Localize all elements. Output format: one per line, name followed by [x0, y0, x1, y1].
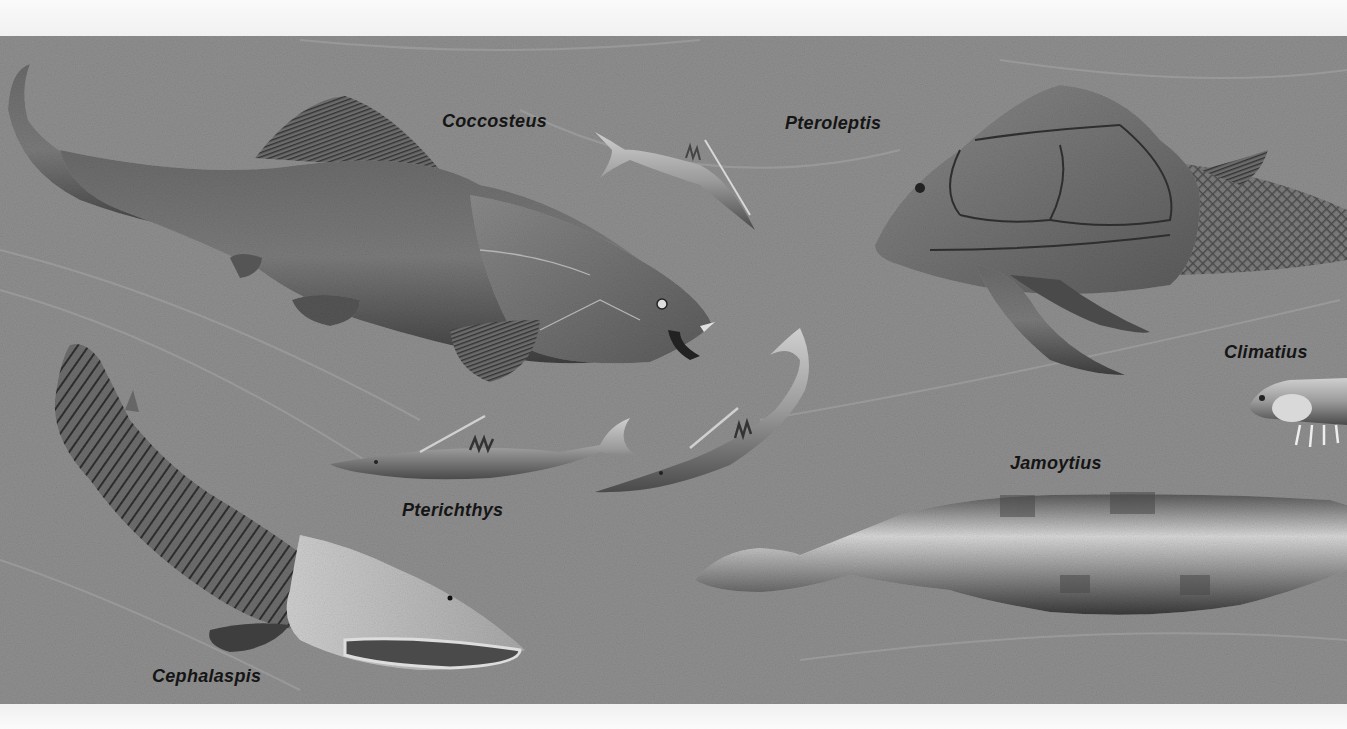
label-cephalaspis: Cephalaspis — [152, 666, 261, 687]
page-top-margin — [0, 0, 1347, 36]
label-pterichthys: Pterichthys — [402, 500, 503, 521]
fish-illustration — [0, 36, 1347, 704]
label-pteroleptis: Pteroleptis — [785, 113, 881, 134]
illustration-plate: Coccosteus Pteroleptis Climatius Jamoyti… — [0, 36, 1347, 704]
label-coccosteus: Coccosteus — [442, 111, 547, 132]
page-bottom-margin — [0, 704, 1347, 729]
label-climatius: Climatius — [1224, 342, 1308, 363]
label-jamoytius: Jamoytius — [1010, 453, 1102, 474]
